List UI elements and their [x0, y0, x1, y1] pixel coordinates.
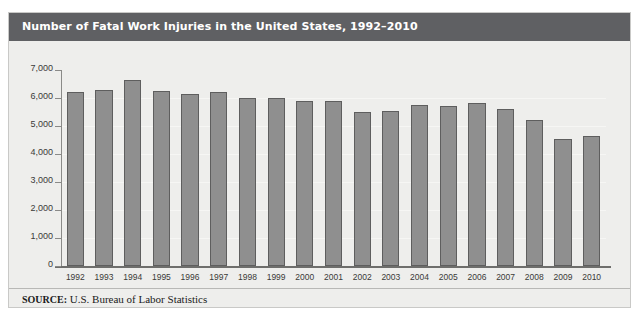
x-axis-tick-label: 2005 — [434, 272, 463, 282]
y-axis-tick-label: 0 — [48, 259, 53, 269]
x-axis-tick-label: 2002 — [348, 272, 377, 282]
x-axis-tick-label: 1992 — [61, 272, 90, 282]
bar-1997 — [210, 92, 227, 266]
y-axis-tick-label: 6,000 — [30, 91, 53, 101]
bar-2008 — [526, 120, 543, 266]
x-axis-tick-label: 2009 — [549, 272, 578, 282]
bar-2002 — [354, 112, 371, 266]
bar-1992 — [67, 92, 84, 266]
x-axis-tick-label: 1999 — [262, 272, 291, 282]
x-axis-tick-label: 2001 — [319, 272, 348, 282]
x-axis-tick-label: 1995 — [147, 272, 176, 282]
source-note: SOURCE: U.S. Bureau of Labor Statistics — [22, 293, 207, 305]
bar-2010 — [583, 136, 600, 266]
bar-1995 — [153, 91, 170, 266]
source-divider — [9, 288, 630, 289]
plot-area — [61, 70, 606, 266]
bar-1994 — [124, 80, 141, 266]
x-axis-tick-label: 1993 — [90, 272, 119, 282]
bar-2000 — [296, 101, 313, 266]
chart-figure: Number of Fatal Work Injuries in the Uni… — [8, 12, 631, 308]
x-axis-tick-label: 1998 — [233, 272, 262, 282]
x-axis-tick-label: 2010 — [577, 272, 606, 282]
x-axis-tick-label: 2003 — [377, 272, 406, 282]
x-axis-line — [55, 266, 611, 268]
bar-1993 — [95, 90, 112, 266]
bar-1999 — [268, 98, 285, 266]
source-label: SOURCE: — [22, 294, 67, 305]
bar-2004 — [411, 105, 428, 266]
x-axis-tick-label: 1997 — [204, 272, 233, 282]
x-axis-tick-label: 2008 — [520, 272, 549, 282]
y-axis-tick-label: 7,000 — [30, 63, 53, 73]
bar-2005 — [440, 106, 457, 266]
y-axis-tick-label: 2,000 — [30, 203, 53, 213]
x-axis-tick-label: 1994 — [118, 272, 147, 282]
page-title: Number of Fatal Work Injuries in the Uni… — [22, 20, 418, 33]
y-axis-tick-label: 1,000 — [30, 231, 53, 241]
x-axis-tick-label: 1996 — [176, 272, 205, 282]
x-axis-tick-label: 2006 — [463, 272, 492, 282]
y-axis-tick-label: 3,000 — [30, 175, 53, 185]
bar-1998 — [239, 98, 256, 266]
y-axis-tick-label: 5,000 — [30, 119, 53, 129]
source-text: U.S. Bureau of Labor Statistics — [67, 293, 207, 305]
bar-2006 — [468, 103, 485, 266]
x-axis-tick-label: 2004 — [405, 272, 434, 282]
bar-2001 — [325, 101, 342, 266]
bar-2009 — [554, 139, 571, 266]
y-axis-tick-label: 4,000 — [30, 147, 53, 157]
y-axis-tick-mark — [55, 266, 61, 267]
x-axis-tick-label: 2007 — [491, 272, 520, 282]
x-axis-tick-label: 2000 — [290, 272, 319, 282]
bar-2007 — [497, 109, 514, 266]
bar-1996 — [181, 94, 198, 266]
chart-title-bar: Number of Fatal Work Injuries in the Uni… — [9, 13, 630, 41]
bar-2003 — [382, 111, 399, 266]
